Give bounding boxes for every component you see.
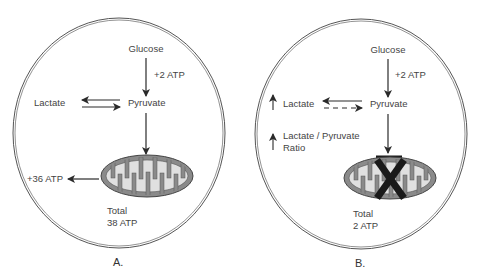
metabolism-diagram: Glucose +2 ATP Pyruvate Lactate bbox=[0, 0, 479, 278]
lactate-label: Lactate bbox=[34, 97, 65, 108]
ratio-label-line2: Ratio bbox=[283, 142, 305, 153]
mito-atp-label: +36 ATP bbox=[27, 173, 63, 184]
pyruvate-label: Pyruvate bbox=[370, 98, 408, 109]
mitochondrion-icon bbox=[101, 155, 193, 197]
glycolysis-atp-label: +2 ATP bbox=[154, 69, 185, 80]
panel-b: Glucose +2 ATP Pyruvate Lactate Lactate … bbox=[255, 19, 467, 269]
lactate-label: Lactate bbox=[283, 98, 314, 109]
total-label: Total bbox=[107, 205, 127, 216]
glucose-label: Glucose bbox=[371, 44, 406, 55]
total-label: Total bbox=[353, 208, 373, 219]
total-atp-value: 38 ATP bbox=[107, 217, 137, 228]
glycolysis-atp-label: +2 ATP bbox=[395, 69, 426, 80]
panel-b-label: B. bbox=[355, 257, 365, 269]
panel-a-label: A. bbox=[113, 256, 123, 268]
pyruvate-label: Pyruvate bbox=[128, 97, 166, 108]
total-atp-value: 2 ATP bbox=[353, 220, 378, 231]
panel-a: Glucose +2 ATP Pyruvate Lactate bbox=[13, 18, 225, 268]
glucose-label: Glucose bbox=[129, 43, 164, 54]
ratio-label: Lactate / Pyruvate bbox=[283, 130, 360, 141]
